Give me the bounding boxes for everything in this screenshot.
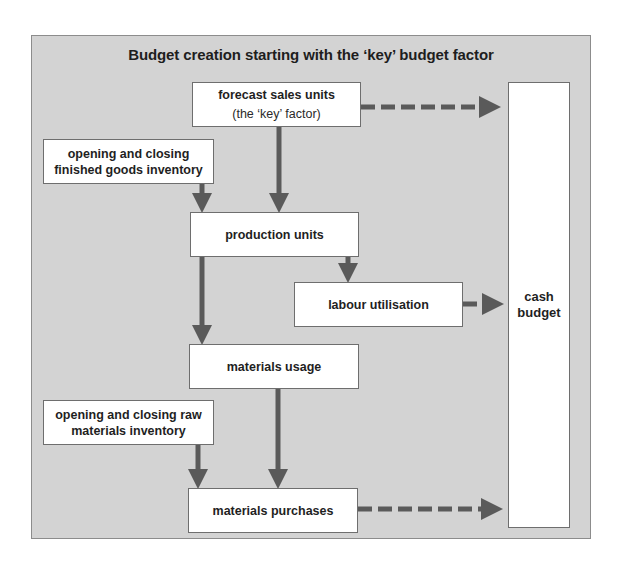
node-cash-budget: cash budget [508,82,570,528]
node-materials-usage: materials usage [189,344,359,389]
node-label: materials purchases [213,503,334,519]
node-materials-purchases: materials purchases [188,488,358,533]
node-raw-materials-inventory: opening and closing raw materials invent… [43,400,214,445]
node-production-units: production units [190,212,359,257]
node-label: forecast sales units [218,87,335,103]
node-label: cash budget [515,289,563,321]
node-label: labour utilisation [328,297,429,313]
node-label: materials usage [227,359,322,375]
node-label: opening and closing finished goods inven… [52,146,205,178]
node-forecast-sales-units: forecast sales units (the ‘key’ factor) [192,82,361,127]
node-sublabel: (the ‘key’ factor) [232,106,320,122]
node-label: opening and closing raw materials invent… [54,407,203,439]
node-finished-goods-inventory: opening and closing finished goods inven… [43,139,214,184]
diagram-title: Budget creation starting with the ‘key’ … [31,46,591,63]
node-label: production units [225,227,324,243]
node-labour-utilisation: labour utilisation [294,282,463,327]
